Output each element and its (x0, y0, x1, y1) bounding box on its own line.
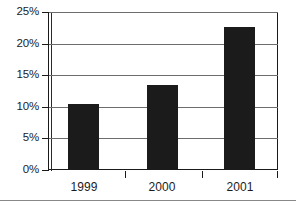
y-tick-label-10: 10% (17, 101, 39, 113)
y-tick-label-15: 15% (17, 69, 39, 81)
y-tick-label-0: 0% (23, 164, 39, 176)
bar-2001 (224, 27, 255, 170)
y-tick-label-20: 20% (17, 38, 39, 50)
bar-1999 (68, 104, 99, 170)
y-tick-label-25: 25% (17, 6, 39, 18)
y-tick-label-5: 5% (23, 132, 39, 144)
y-axis-line (51, 12, 52, 171)
y-tick-15 (42, 75, 49, 76)
y-tick-20 (42, 44, 49, 45)
y-tick-10 (42, 107, 49, 108)
x-tick-2 (202, 171, 203, 178)
bar-chart-figure: 25% 20% 15% 10% 5% 0% 1999 2000 2001 (0, 0, 296, 209)
x-tick-label-2000: 2000 (140, 181, 184, 193)
x-tick-label-2001: 2001 (218, 181, 262, 193)
y-tick-25 (42, 12, 49, 13)
y-tick-0 (42, 170, 49, 171)
x-tick-1 (125, 171, 126, 178)
y-tick-5 (42, 138, 49, 139)
x-tick-label-1999: 1999 (62, 181, 106, 193)
bottom-rule (0, 200, 296, 201)
x-tick-3 (277, 171, 278, 178)
bar-2000 (147, 85, 178, 170)
gridline-25 (48, 12, 278, 13)
